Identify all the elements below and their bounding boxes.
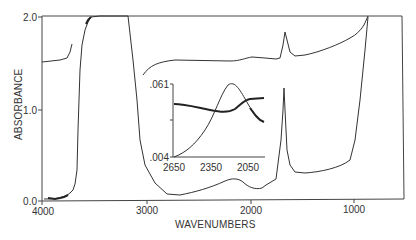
upper-spectrum-left bbox=[42, 44, 72, 62]
y-axis: 2.0 1.0 0.0 ABSORBANCE bbox=[13, 12, 42, 207]
x-axis-label: WAVENUMBERS bbox=[175, 219, 256, 230]
inset-thin-trace bbox=[174, 84, 263, 157]
x-tick-label: 1000 bbox=[343, 204, 366, 215]
ir-spectrum-chart: 2.0 1.0 0.0 ABSORBANCE 4000 3000 2000 10… bbox=[0, 0, 416, 240]
plot-frame bbox=[42, 16, 404, 201]
inset-x-tick-label: 2650 bbox=[163, 162, 186, 173]
x-tick-label: 4000 bbox=[32, 206, 55, 217]
x-tick-label: 2000 bbox=[240, 205, 263, 216]
x-tick-label: 3000 bbox=[136, 205, 159, 216]
y-tick-label: 1.0 bbox=[23, 105, 37, 116]
y-axis-label: ABSORBANCE bbox=[13, 68, 24, 140]
inset-x-tick-label: 2050 bbox=[237, 162, 260, 173]
inset-x-tick-label: 2350 bbox=[200, 162, 223, 173]
x-axis: 4000 3000 2000 1000 WAVENUMBERS bbox=[32, 199, 366, 230]
y-tick-label: 2.0 bbox=[23, 12, 37, 23]
inset-chart: .061 .004 2650 2350 2050 bbox=[150, 79, 265, 173]
upper-spectrum-right bbox=[143, 16, 368, 75]
lower-spectrum-noise-top bbox=[86, 17, 91, 24]
lower-spectrum-noise bbox=[48, 195, 68, 199]
inset-y-tick-label: .061 bbox=[150, 79, 170, 90]
inset-thin-trace-noise bbox=[250, 108, 264, 122]
